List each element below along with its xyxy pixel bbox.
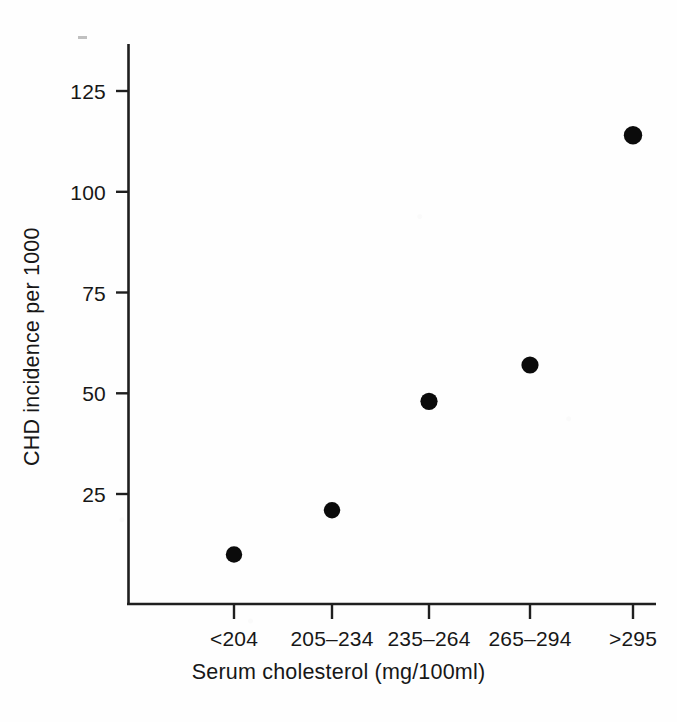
- data-point: [624, 126, 642, 144]
- y-tick-label-25: 25: [58, 484, 106, 505]
- y-axis-title: CHD incidence per 1000: [22, 227, 44, 466]
- data-point: [420, 393, 437, 410]
- data-point: [324, 502, 340, 518]
- x-tick-label-4: 265–294: [488, 628, 571, 649]
- y-tick-label-50: 50: [58, 383, 106, 404]
- x-axis-title: Serum cholesterol (mg/100ml): [192, 662, 486, 684]
- x-tick-label-1: <204: [210, 628, 258, 649]
- data-point: [521, 356, 538, 373]
- x-tick-label-3: 235–264: [387, 628, 470, 649]
- x-tick-label-5: >295: [609, 628, 657, 649]
- data-point: [226, 546, 242, 562]
- y-tick-label-75: 75: [58, 282, 106, 303]
- plot-canvas: [0, 0, 677, 722]
- chart-figure: 125 100 75 50 25 <204 205–234 235–264 26…: [0, 0, 677, 722]
- x-tick-label-2: 205–234: [290, 628, 373, 649]
- y-tick-label-100: 100: [58, 181, 106, 202]
- y-tick-label-125: 125: [58, 81, 106, 102]
